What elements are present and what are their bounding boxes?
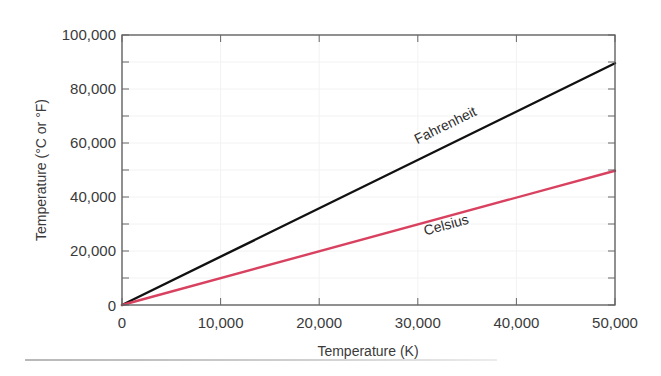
gridlines xyxy=(122,35,615,305)
y-tick-label: 20,000 xyxy=(70,242,116,259)
bottom-rule-divider xyxy=(25,359,497,361)
y-tick-label: 0 xyxy=(108,297,116,314)
x-tick-label: 10,000 xyxy=(198,314,244,331)
temperature-conversion-chart: 010,00020,00030,00040,00050,000 020,0004… xyxy=(0,0,661,376)
series-labels: FahrenheitCelsius xyxy=(412,103,479,238)
series-line-fahrenheit xyxy=(122,63,615,305)
x-tick-label: 30,000 xyxy=(395,314,441,331)
series-label-celsius: Celsius xyxy=(422,211,470,239)
x-tick-label: 40,000 xyxy=(493,314,539,331)
x-axis-title: Temperature (K) xyxy=(317,343,418,359)
y-tick-labels: 020,00040,00060,00080,000100,000 xyxy=(62,26,116,314)
y-tick-label: 100,000 xyxy=(62,26,116,43)
y-tick-label: 40,000 xyxy=(70,188,116,205)
x-tick-label: 20,000 xyxy=(296,314,342,331)
series-line-celsius xyxy=(122,171,615,305)
x-tick-label: 50,000 xyxy=(592,314,638,331)
x-tick-labels: 010,00020,00030,00040,00050,000 xyxy=(118,314,638,331)
y-tick-label: 80,000 xyxy=(70,80,116,97)
y-tick-label: 60,000 xyxy=(70,134,116,151)
x-tick-label: 0 xyxy=(118,314,126,331)
series-label-fahrenheit: Fahrenheit xyxy=(412,103,479,147)
y-axis-title: Temperature (°C or °F) xyxy=(33,99,49,241)
series-lines xyxy=(122,63,615,305)
